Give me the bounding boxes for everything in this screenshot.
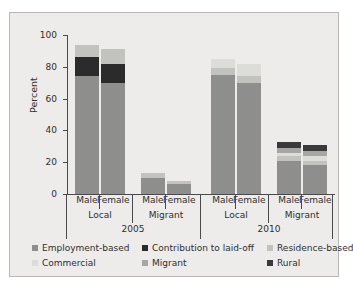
legend-label: Employment-based (42, 243, 129, 253)
bar-2010-migrant-female (303, 145, 327, 194)
x-axis-level-residency: LocalMigrantLocalMigrant (67, 209, 335, 223)
x-label-residency: Migrant (273, 210, 331, 220)
x-label-separator (332, 194, 333, 239)
legend-label: Rural (277, 258, 300, 268)
x-label-residency: Migrant (137, 210, 195, 220)
x-label-year: 2005 (71, 224, 195, 234)
bar-2010-local-male (211, 59, 235, 194)
x-label-gender: Female (299, 195, 331, 205)
legend-swatch-icon (267, 260, 273, 266)
bar-segment-employment-based (303, 165, 327, 194)
y-tick-label: 80 (46, 62, 57, 72)
legend-swatch-icon (267, 245, 273, 251)
legend-swatch-icon (32, 245, 38, 251)
legend-item: Residence-based (267, 243, 353, 253)
bar-segment-commercial (211, 59, 235, 69)
bar-2010-migrant-male (277, 142, 301, 194)
x-axis-level-gender: MaleFemaleMaleFemaleMaleFemaleMaleFemale (67, 194, 335, 209)
bar-segment-contribution-to-laid-off (75, 57, 99, 76)
legend-swatch-icon (32, 260, 38, 266)
x-label-gender: Female (163, 195, 195, 205)
bar-2005-migrant-male (141, 173, 165, 194)
y-tick-label: 100 (40, 30, 57, 40)
y-tick-label: 40 (46, 125, 57, 135)
x-axis-labels: MaleFemaleMaleFemaleMaleFemaleMaleFemale… (67, 194, 335, 250)
chart-panel: Percent 020406080100 MaleFemaleMaleFemal… (9, 12, 339, 277)
legend-swatch-icon (142, 245, 148, 251)
y-tick-label: 0 (51, 189, 57, 199)
bar-segment-employment-based (237, 83, 261, 194)
plot-area: 020406080100 (67, 35, 335, 206)
legend-row-2: CommercialMigrantRural (32, 258, 332, 273)
legend-label: Residence-based (277, 243, 353, 253)
y-axis-title: Percent (28, 77, 39, 113)
x-label-separator (132, 194, 133, 223)
x-label-separator (301, 194, 302, 209)
y-tick-label: 60 (46, 94, 57, 104)
bar-segment-employment-based (211, 75, 235, 194)
bar-segment-residence-based (75, 45, 99, 58)
bar-2005-migrant-female (167, 181, 191, 194)
bar-segment-employment-based (277, 161, 301, 194)
x-axis-level-year: 20052010 (67, 223, 335, 239)
bar-segment-employment-based (75, 76, 99, 194)
bar-segment-employment-based (141, 178, 165, 194)
bar-2010-local-female (237, 64, 261, 194)
x-label-separator (66, 194, 67, 239)
bar-segment-residence-based (101, 49, 125, 63)
legend-label: Migrant (152, 258, 186, 268)
x-label-separator (165, 194, 166, 209)
x-label-separator (268, 194, 269, 223)
legend-item: Commercial (32, 258, 96, 268)
legend-label: Commercial (42, 258, 96, 268)
x-label-year: 2010 (207, 224, 331, 234)
bar-segment-employment-based (101, 83, 125, 194)
bar-segment-contribution-to-laid-off (101, 64, 125, 83)
x-label-gender: Female (233, 195, 265, 205)
x-label-residency: Local (207, 210, 265, 220)
bar-series-container (67, 35, 335, 194)
bar-segment-commercial (237, 64, 261, 77)
legend-swatch-icon (142, 260, 148, 266)
legend-item: Migrant (142, 258, 186, 268)
bar-2005-local-male (75, 45, 99, 194)
legend-row-1: Employment-basedContribution to laid-off… (32, 243, 332, 258)
x-label-gender: Female (97, 195, 129, 205)
legend: Employment-basedContribution to laid-off… (32, 243, 332, 277)
y-tick-label: 20 (46, 157, 57, 167)
bar-2005-local-female (101, 49, 125, 194)
bar-segment-employment-based (167, 184, 191, 194)
x-label-separator (200, 194, 201, 239)
legend-item: Employment-based (32, 243, 129, 253)
legend-item: Contribution to laid-off (142, 243, 254, 253)
x-label-separator (99, 194, 100, 209)
legend-item: Rural (267, 258, 300, 268)
legend-label: Contribution to laid-off (152, 243, 254, 253)
x-label-separator (235, 194, 236, 209)
x-label-residency: Local (71, 210, 129, 220)
